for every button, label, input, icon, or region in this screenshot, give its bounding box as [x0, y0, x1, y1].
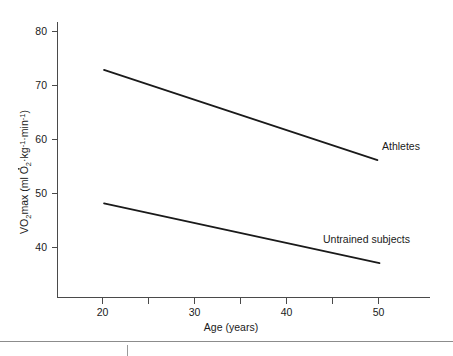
series-line-athletes [104, 70, 378, 160]
y-tick-label-40: 40 [35, 241, 47, 253]
y-title-kg-sup: -1 [18, 141, 27, 148]
y-tick-label-70: 70 [35, 79, 47, 91]
y-axis-ticks [52, 32, 58, 248]
vdot-overdot-icon [18, 168, 20, 170]
y-title-max: max (ml O [18, 166, 30, 214]
x-axis-tick-labels: 20 30 40 50 [97, 306, 385, 318]
y-tick-label-60: 60 [35, 133, 47, 145]
x-tick-label-50: 50 [373, 306, 385, 318]
y-title-min-sup: -1 [18, 114, 27, 121]
vo2max-age-line-chart: 80 70 60 50 40 20 30 40 50 Age (years) [0, 0, 453, 356]
y-tick-label-80: 80 [35, 25, 47, 37]
x-axis-title: Age (years) [204, 321, 258, 333]
y-axis-title: VO2max (ml O2·kg-1·min-1) [18, 110, 33, 234]
y-title-kg: ·kg [18, 147, 30, 162]
series-label-untrained-subjects: Untrained subjects [323, 233, 410, 245]
y-title-min: ·min [18, 120, 30, 141]
x-tick-label-20: 20 [97, 306, 109, 318]
y-title-close: ) [18, 110, 30, 114]
footer-tick-mark [127, 345, 128, 356]
svg-text:VO2max (ml O2·kg-1·min-1): VO2max (ml O2·kg-1·min-1) [18, 110, 33, 234]
y-axis-tick-labels: 80 70 60 50 40 [35, 25, 47, 253]
y-tick-label-50: 50 [35, 187, 47, 199]
series-label-athletes: Athletes [382, 140, 420, 152]
x-axis-ticks [103, 298, 379, 304]
x-tick-label-40: 40 [281, 306, 293, 318]
y-title-vdot: V [18, 227, 30, 234]
footer-divider [0, 341, 453, 342]
x-tick-label-30: 30 [189, 306, 201, 318]
y-title-o: O [18, 219, 30, 227]
figure-container: 80 70 60 50 40 20 30 40 50 Age (years) [0, 0, 453, 356]
